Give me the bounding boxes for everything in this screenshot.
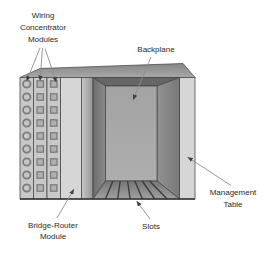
square-port-icon <box>51 172 57 178</box>
label-line: Table <box>210 199 257 211</box>
bridge-router-module-panel <box>61 78 82 200</box>
label-line: Modules <box>20 34 66 46</box>
square-port-icon <box>51 159 57 165</box>
square-port-icon <box>51 120 57 126</box>
circle-port-icon <box>23 171 30 178</box>
chassis-top-face <box>20 64 195 78</box>
circle-port-icon <box>23 119 30 126</box>
circle-port-icon <box>23 132 30 139</box>
square-port-icon <box>37 185 43 191</box>
label-backplane: Backplane <box>137 44 174 56</box>
label-line: Bridge-Router <box>28 221 78 232</box>
front-divider-panel <box>82 78 94 200</box>
square-port-icon <box>37 94 43 100</box>
wiring-concentrator-module-3-ports <box>51 81 57 191</box>
label-line: Management <box>210 187 257 199</box>
label-management-table: Management Table <box>210 187 257 210</box>
square-port-icon <box>51 94 57 100</box>
square-port-icon <box>37 133 43 139</box>
label-line: Module <box>28 232 78 243</box>
square-port-icon <box>37 172 43 178</box>
square-port-icon <box>51 185 57 191</box>
circle-port-icon <box>23 184 30 191</box>
square-port-icon <box>37 159 43 165</box>
square-port-icon <box>51 133 57 139</box>
square-port-icon <box>37 146 43 152</box>
interior-left-wall <box>93 78 106 200</box>
backplane-panel <box>106 86 158 181</box>
wiring-concentrator-module-1-ports <box>23 80 30 191</box>
label-line: Wiring <box>20 10 66 22</box>
square-port-icon <box>37 81 43 87</box>
square-port-icon <box>51 146 57 152</box>
square-port-icon <box>51 107 57 113</box>
label-line: Slots <box>142 221 160 233</box>
circle-port-icon <box>23 158 30 165</box>
square-port-icon <box>37 107 43 113</box>
management-panel <box>180 78 196 200</box>
circle-port-icon <box>23 106 30 113</box>
circle-port-icon <box>23 93 30 100</box>
interior-right-wall <box>157 78 180 200</box>
wiring-concentrator-module-2-ports <box>37 81 43 191</box>
slots-arrow <box>137 201 151 219</box>
label-line: Concentrator <box>20 22 66 34</box>
network-hub-diagram: Wiring Concentrator Modules Backplane Br… <box>0 0 279 255</box>
label-bridge-router-module: Bridge-Router Module <box>28 221 78 242</box>
label-line: Backplane <box>137 44 174 56</box>
label-wiring-concentrator-modules: Wiring Concentrator Modules <box>20 10 66 46</box>
circle-port-icon <box>23 145 30 152</box>
square-port-icon <box>37 120 43 126</box>
label-slots: Slots <box>142 221 160 233</box>
